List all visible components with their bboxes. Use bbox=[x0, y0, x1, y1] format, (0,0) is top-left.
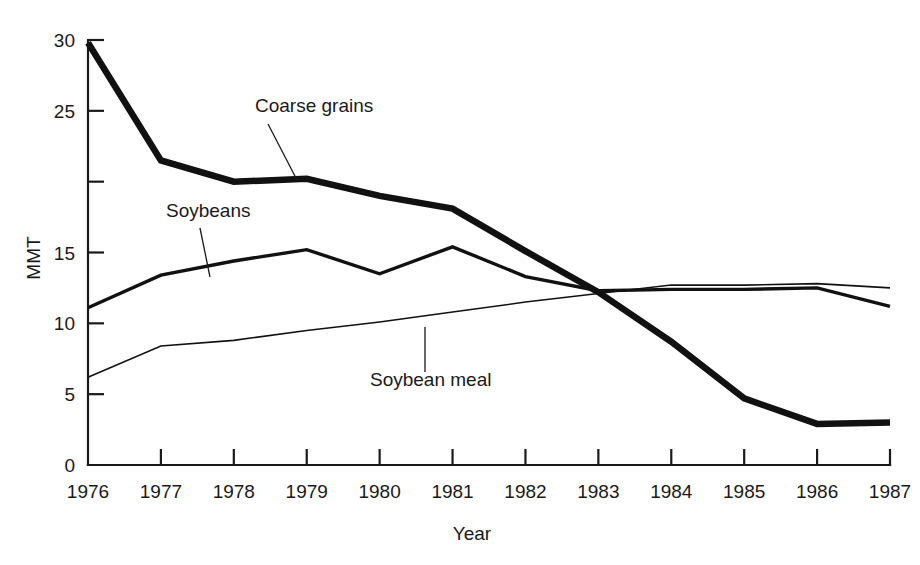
x-tick-label-1986: 1986 bbox=[796, 481, 838, 502]
x-tick-label-1985: 1985 bbox=[723, 481, 765, 502]
y-tick-label-0: 0 bbox=[64, 455, 75, 476]
y-axis-title: MMT bbox=[23, 236, 44, 280]
annotation-label-soybeans: Soybeans bbox=[166, 200, 251, 221]
series-line-soybean-meal bbox=[88, 284, 890, 378]
x-tick-label-1977: 1977 bbox=[140, 481, 182, 502]
x-axis-ticks bbox=[161, 449, 890, 465]
x-axis-title: Year bbox=[453, 523, 492, 544]
leader-line-soybeans bbox=[200, 228, 210, 277]
x-tick-label-1976: 1976 bbox=[67, 481, 109, 502]
annotation-label-coarse-grains: Coarse grains bbox=[255, 95, 373, 116]
annotation-label-soybean-meal: Soybean meal bbox=[370, 369, 491, 390]
y-axis-ticks bbox=[88, 40, 104, 394]
y-axis-tick-labels: 0510152530 bbox=[54, 30, 75, 476]
series-lines bbox=[88, 43, 890, 424]
y-tick-label-25: 25 bbox=[54, 101, 75, 122]
y-tick-label-30: 30 bbox=[54, 30, 75, 51]
series-line-soybeans bbox=[88, 247, 890, 308]
x-tick-label-1978: 1978 bbox=[213, 481, 255, 502]
line-chart: 0510152530 19761977197819791980198119821… bbox=[0, 0, 920, 565]
x-tick-label-1984: 1984 bbox=[650, 481, 693, 502]
chart-container: 0510152530 19761977197819791980198119821… bbox=[0, 0, 920, 565]
x-tick-label-1979: 1979 bbox=[286, 481, 328, 502]
leader-line-coarse-grains bbox=[268, 124, 297, 180]
x-tick-label-1981: 1981 bbox=[431, 481, 473, 502]
y-tick-label-10: 10 bbox=[54, 313, 75, 334]
series-annotations: Coarse grainsSoybeansSoybean meal bbox=[166, 95, 491, 390]
x-tick-label-1980: 1980 bbox=[358, 481, 400, 502]
x-axis-tick-labels: 1976197719781979198019811982198319841985… bbox=[67, 481, 911, 502]
y-tick-label-5: 5 bbox=[64, 384, 75, 405]
series-line-coarse-grains bbox=[88, 43, 890, 424]
y-tick-label-15: 15 bbox=[54, 243, 75, 264]
x-tick-label-1982: 1982 bbox=[504, 481, 546, 502]
x-tick-label-1983: 1983 bbox=[577, 481, 619, 502]
x-tick-label-1987: 1987 bbox=[869, 481, 911, 502]
